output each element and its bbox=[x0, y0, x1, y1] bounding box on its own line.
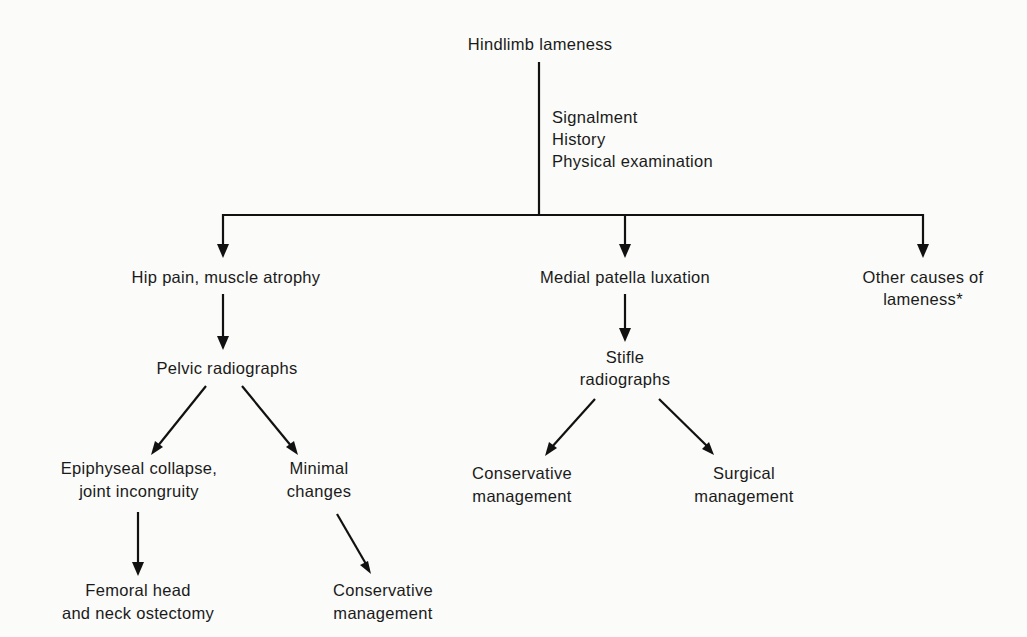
arrow-down-icon bbox=[917, 244, 929, 258]
arrow-down-icon bbox=[619, 244, 631, 258]
node-minimal-changes-line2: changes bbox=[287, 482, 351, 500]
note-signalment: Signalment bbox=[552, 108, 638, 126]
node-hindlimb-lameness: Hindlimb lameness bbox=[468, 35, 613, 53]
node-stifle-line1: Stifle bbox=[606, 348, 644, 366]
arrow-down-icon bbox=[619, 328, 631, 342]
node-hip-pain: Hip pain, muscle atrophy bbox=[132, 268, 321, 286]
arrow-down-icon bbox=[132, 562, 144, 576]
node-medial-patella-luxation: Medial patella luxation bbox=[540, 268, 710, 286]
node-patella-conservative-line2: management bbox=[472, 487, 571, 505]
node-pelvic-radiographs: Pelvic radiographs bbox=[156, 359, 297, 377]
note-history: History bbox=[552, 130, 606, 148]
connector-patella-right bbox=[659, 399, 708, 447]
node-other-causes-line2: lameness* bbox=[883, 290, 963, 308]
node-fho-line1: Femoral head bbox=[85, 581, 190, 599]
node-hip-conservative-line1: Conservative bbox=[333, 581, 433, 599]
connector-hip-right bbox=[242, 386, 292, 447]
arrow-down-icon bbox=[217, 244, 229, 258]
connector-hip-left bbox=[157, 386, 206, 447]
node-other-causes-line1: Other causes of bbox=[863, 268, 984, 286]
arrow-down-right-icon bbox=[360, 561, 371, 574]
arrow-down-icon bbox=[217, 336, 229, 350]
connector-hip-conservative bbox=[337, 514, 366, 564]
node-epiphyseal-collapse-line1: Epiphyseal collapse, bbox=[61, 459, 217, 477]
connector-patella-left bbox=[551, 399, 595, 448]
node-epiphyseal-collapse-line2: joint incongruity bbox=[78, 482, 199, 500]
node-minimal-changes-line1: Minimal bbox=[290, 459, 349, 477]
flowchart: Hindlimb lameness Signalment History Phy… bbox=[0, 0, 1027, 637]
node-hip-conservative-line2: management bbox=[333, 604, 432, 622]
node-stifle-line2: radiographs bbox=[580, 370, 670, 388]
node-patella-conservative-line1: Conservative bbox=[472, 464, 572, 482]
node-fho-line2: and neck ostectomy bbox=[62, 604, 215, 622]
node-surgical-line2: management bbox=[694, 487, 793, 505]
note-physical-exam: Physical examination bbox=[552, 152, 713, 170]
node-surgical-line1: Surgical bbox=[713, 464, 775, 482]
